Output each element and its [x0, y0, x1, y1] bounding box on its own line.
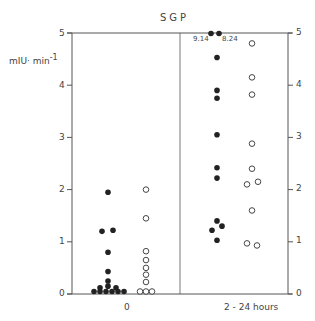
left-tick-label-2: 2: [59, 184, 65, 194]
open-data-point: [137, 289, 143, 295]
filled-data-point: [219, 223, 225, 229]
filled-data-point: [214, 132, 220, 138]
annotation-8-24: 8.24: [222, 35, 238, 43]
left-tick-label-5: 5: [59, 28, 65, 38]
filled-data-point: [208, 31, 214, 37]
filled-data-point: [110, 228, 116, 234]
x-category-2-24-hours: 2 - 24 hours: [224, 302, 278, 312]
chart-title: SGP: [160, 12, 189, 23]
y-axis-label: mIU· min-1: [9, 53, 58, 66]
filled-data-point: [103, 289, 109, 295]
open-data-point: [143, 257, 149, 263]
y-unit: mIU· min: [9, 56, 50, 66]
right-tick-label-1: 1: [296, 235, 302, 245]
x-category-0: 0: [124, 302, 130, 312]
open-data-point: [143, 289, 149, 295]
open-data-point: [249, 166, 255, 172]
filled-data-point: [214, 95, 220, 101]
open-data-point: [143, 265, 149, 271]
dot-plot: [0, 0, 315, 321]
right-tick-label-3: 3: [296, 131, 302, 141]
filled-data-point: [216, 31, 222, 37]
left-tick-label-3: 3: [59, 132, 65, 142]
open-data-point: [149, 289, 155, 295]
open-data-point: [249, 92, 255, 98]
open-data-point: [249, 41, 255, 47]
filled-data-point: [214, 165, 220, 171]
open-data-point: [143, 272, 149, 278]
open-data-point: [143, 248, 149, 254]
filled-data-point: [214, 218, 220, 224]
filled-data-point: [109, 289, 115, 295]
filled-data-point: [105, 283, 111, 289]
left-tick-label-0: 0: [59, 288, 65, 298]
open-data-point: [249, 208, 255, 214]
filled-data-point: [105, 269, 111, 275]
open-data-point: [143, 216, 149, 222]
filled-data-point: [105, 249, 111, 255]
right-tick-label-4: 4: [296, 79, 302, 89]
open-data-point: [244, 241, 250, 247]
open-data-point: [143, 187, 149, 193]
filled-data-point: [214, 88, 220, 94]
open-data-point: [249, 75, 255, 81]
open-data-point: [249, 141, 255, 147]
filled-data-point: [214, 175, 220, 181]
filled-data-point: [214, 237, 220, 243]
right-tick-label-0: 0: [296, 288, 302, 298]
filled-data-point: [97, 289, 103, 295]
left-tick-label-4: 4: [59, 80, 65, 90]
open-data-point: [255, 179, 261, 185]
annotation-9-14: 9.14: [193, 35, 209, 43]
filled-data-point: [99, 229, 105, 235]
filled-data-point: [91, 289, 97, 295]
y-unit-exponent: -1: [50, 53, 58, 62]
right-tick-label-2: 2: [296, 183, 302, 193]
filled-data-point: [121, 289, 127, 295]
open-data-point: [254, 243, 260, 249]
right-tick-label-5: 5: [296, 27, 302, 37]
open-data-point: [244, 182, 250, 188]
filled-data-point: [105, 278, 111, 284]
left-tick-label-1: 1: [59, 236, 65, 246]
open-data-point: [143, 279, 149, 285]
filled-data-point: [214, 55, 220, 61]
filled-data-point: [105, 189, 111, 195]
filled-data-point: [115, 289, 121, 295]
filled-data-point: [209, 228, 215, 234]
